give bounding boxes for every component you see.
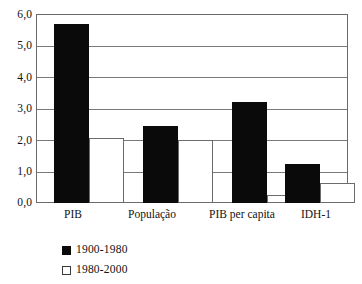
- legend-label: 1900-1980: [76, 244, 128, 256]
- bar-idh-1900-1980[interactable]: [285, 164, 320, 203]
- bars-layer: [36, 14, 348, 203]
- y-axis-tick-label: 4,0: [2, 72, 32, 84]
- y-axis-tick-label: 0,0: [2, 197, 32, 209]
- x-axis-tick-label-populacao: População: [110, 208, 194, 221]
- legend-item-1900-1980[interactable]: 1900-1980: [62, 240, 128, 260]
- bar-chart-figure: 6,0 5,0 4,0 3,0 2,0 1,0 0,0 PIB Populaçã…: [0, 0, 362, 284]
- y-axis-tick-label: 3,0: [2, 103, 32, 115]
- bar-pib-1900-1980[interactable]: [54, 24, 89, 203]
- bar-pib-1980-2000[interactable]: [89, 138, 124, 203]
- chart-legend: 1900-1980 1980-2000: [62, 240, 128, 280]
- bar-populacao-1900-1980[interactable]: [143, 126, 178, 203]
- x-axis-tick-label-pib-per-capita: PIB per capita: [192, 208, 292, 221]
- x-axis-tick-label-idh: IDH-1: [281, 208, 351, 221]
- legend-label: 1980-2000: [76, 264, 128, 276]
- y-axis-tick-label: 2,0: [2, 135, 32, 147]
- y-axis-tick-label: 5,0: [2, 40, 32, 52]
- bar-pib-per-capita-1900-1980[interactable]: [232, 102, 267, 203]
- legend-item-1980-2000[interactable]: 1980-2000: [62, 260, 128, 280]
- bar-idh-1980-2000[interactable]: [320, 183, 355, 203]
- x-axis-tick-label-pib: PIB: [38, 208, 108, 221]
- filled-square-icon: [62, 246, 71, 255]
- bar-populacao-1980-2000[interactable]: [178, 140, 213, 203]
- open-square-icon: [62, 266, 71, 275]
- y-axis-tick-label: 6,0: [2, 9, 32, 21]
- y-axis-tick-label: 1,0: [2, 166, 32, 178]
